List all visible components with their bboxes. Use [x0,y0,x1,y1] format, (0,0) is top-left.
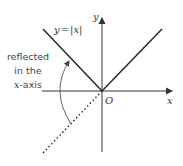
annotation-line-2: in the [14,65,41,76]
annotation-line-1: reflected [7,51,49,62]
y-axis-label: y [92,11,99,22]
function-label: y=|x| [53,24,82,36]
graph-left-branch [43,29,102,91]
annotation-line-3: x-axis [14,79,42,90]
reflected-branch-dotted [43,91,102,153]
graph-diagram: y=|x| reflected in the x-axis y x O [0,0,183,166]
reflection-arc-arrow [60,61,71,124]
graph-right-branch [102,29,162,91]
x-axis-label: x [167,95,173,106]
origin-label: O [105,95,113,106]
